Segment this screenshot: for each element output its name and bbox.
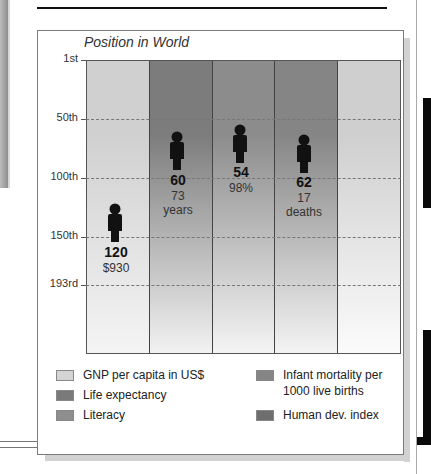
legend-label-life-expectancy: Life expectancy (83, 387, 166, 403)
marker-unit-life-expectancy: years (148, 203, 208, 217)
page-rule (0, 447, 38, 448)
y-tick (81, 60, 86, 61)
legend-swatch-literacy (56, 410, 74, 421)
gridline-50th (86, 119, 401, 120)
frame-shadow (404, 38, 410, 462)
gridline-193rd (86, 285, 401, 286)
page-edge-strip-highlight (8, 0, 10, 188)
page-divider (416, 0, 417, 474)
page-edge-bar (417, 437, 431, 445)
gridline-150th (86, 237, 401, 238)
y-tick (81, 237, 86, 238)
page-edge-strip (0, 0, 8, 188)
marker-value-gnp: 120 (86, 244, 146, 260)
person-icon (294, 134, 314, 174)
y-label-50th: 50th (34, 111, 78, 123)
y-tick (81, 285, 86, 286)
column-human-dev-index (338, 61, 400, 353)
y-label-193rd: 193rd (34, 277, 78, 289)
plot-area (86, 60, 401, 354)
frame-shadow (45, 455, 410, 461)
person-icon (167, 131, 187, 171)
person-icon (230, 124, 250, 164)
legend-swatch-life-expectancy (56, 390, 74, 401)
marker-value-infant-mortality: 62 (274, 174, 334, 190)
legend-label-infant-mortality-line2: 1000 live births (283, 383, 364, 399)
y-tick (81, 119, 86, 120)
legend-label-literacy: Literacy (83, 407, 125, 423)
page-edge-bar (423, 330, 431, 444)
legend-swatch-gnp (56, 370, 74, 381)
marker-value-literacy: 54 (211, 164, 271, 180)
legend-label-human-dev-index: Human dev. index (283, 407, 379, 423)
y-tick (81, 178, 86, 179)
header-rule (37, 7, 387, 9)
marker-unit-infant-mortality: deaths (274, 205, 334, 219)
legend-label-gnp: GNP per capita in US$ (83, 367, 204, 383)
page-rule (0, 441, 38, 442)
marker-value-life-expectancy: 60 (148, 172, 208, 188)
marker-detail-literacy: 98% (211, 181, 271, 195)
person-icon (105, 203, 125, 243)
legend-swatch-human-dev-index (256, 410, 274, 421)
y-label-1st: 1st (34, 52, 78, 64)
legend-swatch-infant-mortality (256, 370, 274, 381)
chart-title: Position in World (84, 34, 189, 50)
y-label-100th: 100th (34, 170, 78, 182)
marker-detail-life-expectancy: 73 (148, 189, 208, 203)
legend-label-infant-mortality: Infant mortality per (283, 367, 382, 383)
y-label-150th: 150th (34, 229, 78, 241)
column-literacy (213, 61, 276, 353)
marker-detail-gnp: $930 (86, 261, 146, 275)
page-edge-bar (423, 98, 431, 208)
marker-detail-infant-mortality: 17 (274, 191, 334, 205)
